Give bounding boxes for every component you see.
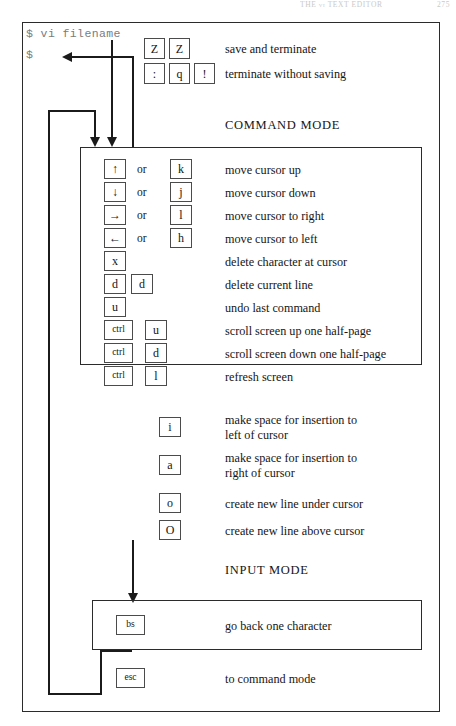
connector-return-left-vertical (48, 110, 50, 694)
exit-command-description-save: save and terminate (225, 42, 316, 56)
key-esc[interactable]: esc (116, 668, 145, 688)
key-arrow-left[interactable]: ← (104, 228, 126, 248)
connector-exit-horizontal (72, 56, 134, 58)
connector-input-entry-line (132, 540, 134, 596)
key-colon[interactable]: : (144, 63, 165, 84)
command-mode-caption: COMMAND MODE (225, 118, 340, 133)
key-arrow-down[interactable]: ↓ (104, 182, 126, 202)
key-ctrl-scroll-up[interactable]: ctrl (104, 320, 133, 340)
connector-command-entry-line (111, 40, 113, 138)
input-mode-description-bs: go back one character (225, 619, 332, 633)
connector-return-bottom-horizontal (48, 693, 102, 695)
key-arrow-right[interactable]: → (104, 205, 126, 225)
key-bs[interactable]: bs (116, 615, 145, 635)
connector-esc-riser (100, 650, 102, 695)
key-l-refresh[interactable]: l (145, 366, 167, 386)
insert-description-i-line2: left of cursor (225, 428, 288, 442)
command-description-row8: scroll screen up one half-page (225, 324, 371, 338)
or-label-row1: or (137, 163, 147, 175)
insert-description-o-upper: create new line above cursor (225, 524, 364, 538)
running-head: THE vi TEXT EDITOR 275 (300, 0, 450, 11)
key-ctrl-scroll-down[interactable]: ctrl (104, 343, 133, 363)
or-label-row2: or (137, 186, 147, 198)
command-description-row9: scroll screen down one half-page (225, 347, 386, 361)
key-d-second[interactable]: d (131, 274, 153, 294)
key-k[interactable]: k (170, 159, 192, 179)
diagram-page: THE vi TEXT EDITOR 275 $ vi filename $ Z… (0, 0, 456, 726)
key-x[interactable]: x (104, 251, 126, 271)
key-arrow-up[interactable]: ↑ (104, 159, 126, 179)
key-j[interactable]: j (170, 182, 192, 202)
connector-command-entry-arrowhead (107, 137, 117, 147)
key-d-scroll-down[interactable]: d (145, 343, 167, 363)
key-l-right[interactable]: l (170, 205, 192, 225)
command-description-row7: undo last command (225, 301, 320, 315)
connector-return-arrowhead (90, 137, 100, 147)
input-mode-caption: INPUT MODE (225, 563, 309, 578)
key-ctrl-refresh[interactable]: ctrl (104, 366, 133, 386)
insert-description-o-lower: create new line under cursor (225, 497, 363, 511)
command-description-row3: move cursor to right (225, 209, 324, 223)
key-i-insert[interactable]: i (159, 417, 181, 437)
exit-command-description-quit: terminate without saving (225, 67, 346, 81)
terminal-prompt-line: $ (26, 48, 33, 61)
key-h[interactable]: h (170, 228, 192, 248)
or-label-row3: or (137, 209, 147, 221)
connector-esc-horizontal (100, 650, 132, 652)
key-Z-second[interactable]: Z (169, 38, 190, 59)
running-head-page-number: 275 (437, 0, 450, 9)
connector-return-top-horizontal (48, 110, 96, 112)
command-description-row2: move cursor down (225, 186, 316, 200)
command-description-row5: delete character at cursor (225, 255, 347, 269)
or-label-row4: or (137, 232, 147, 244)
key-u-undo[interactable]: u (104, 297, 126, 317)
key-u-scroll-up[interactable]: u (145, 320, 167, 340)
escape-description: to command mode (225, 672, 316, 686)
key-a-append[interactable]: a (159, 455, 181, 475)
insert-description-a-line1: make space for insertion to (225, 451, 357, 465)
connector-exit-riser (132, 56, 134, 148)
running-head-title: THE vi TEXT EDITOR (300, 0, 383, 9)
connector-exit-arrowhead (62, 52, 72, 62)
connector-return-into-command-box (94, 110, 96, 138)
insert-description-i-line1: make space for insertion to (225, 413, 357, 427)
key-q[interactable]: q (169, 63, 190, 84)
key-o-upper[interactable]: O (159, 520, 181, 540)
command-description-row6: delete current line (225, 278, 313, 292)
key-Z-first[interactable]: Z (144, 38, 165, 59)
command-description-row10: refresh screen (225, 370, 293, 384)
key-d-first[interactable]: d (104, 274, 126, 294)
key-o-lower[interactable]: o (159, 493, 181, 513)
command-description-row1: move cursor up (225, 163, 301, 177)
terminal-command-line: $ vi filename (26, 27, 121, 40)
command-description-row4: move cursor to left (225, 232, 317, 246)
key-bang[interactable]: ! (194, 63, 215, 84)
insert-description-a-line2: right of cursor (225, 466, 295, 480)
